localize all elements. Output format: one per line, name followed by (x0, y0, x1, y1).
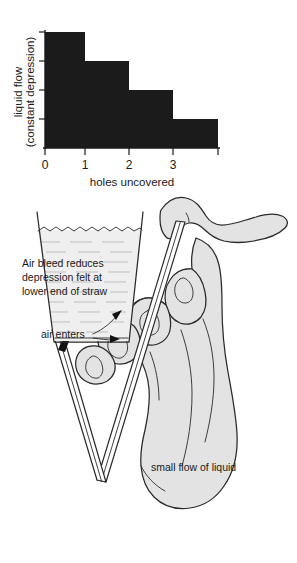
finger-index (165, 269, 206, 324)
x-axis-ticks (45, 148, 218, 155)
annotation-air-bleed: Air bleed reduces depression felt at low… (22, 257, 108, 297)
x-tick-label-3: 3 (170, 158, 177, 172)
x-tick-label-0: 0 (42, 158, 49, 172)
air-enters-label: air enters (41, 328, 85, 340)
bar-chart-svg: 0 1 2 3 holes uncovered liquid flow (con… (0, 0, 297, 190)
bar-1-hole (85, 61, 129, 148)
x-tick-label-1: 1 (82, 158, 89, 172)
bar-0-holes (45, 32, 85, 148)
straw-diagram-svg: Air bleed reduces depression felt at low… (0, 186, 297, 563)
air-bleed-line-3: lower end of straw (22, 285, 108, 297)
figure-root: 0 1 2 3 holes uncovered liquid flow (con… (0, 0, 297, 563)
bar-series (45, 32, 218, 148)
bar-2-holes (129, 90, 173, 148)
bar-chart: 0 1 2 3 holes uncovered liquid flow (con… (0, 0, 297, 190)
small-flow-label: small flow of liquid (151, 461, 236, 473)
straw-diagram: Air bleed reduces depression felt at low… (0, 186, 297, 563)
x-tick-label-2: 2 (126, 158, 133, 172)
y-axis-title-line2: (constant depression) (24, 37, 36, 148)
y-axis-ticks (39, 32, 45, 119)
y-axis-title-line1: liquid flow (12, 66, 24, 117)
air-bleed-line-1: Air bleed reduces (22, 257, 104, 269)
bar-3-holes (173, 119, 218, 148)
air-bleed-line-2: depression felt at (22, 271, 102, 283)
